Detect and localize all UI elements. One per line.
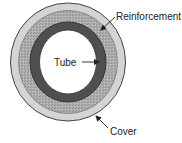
cover-label: Cover (110, 126, 137, 137)
tube-label: Tube (54, 57, 77, 68)
cover-arrow (96, 116, 108, 128)
reinforcement-label: Reinforcement (116, 11, 181, 22)
hose-cross-section-diagram: Reinforcement Tube Cover (0, 0, 182, 143)
